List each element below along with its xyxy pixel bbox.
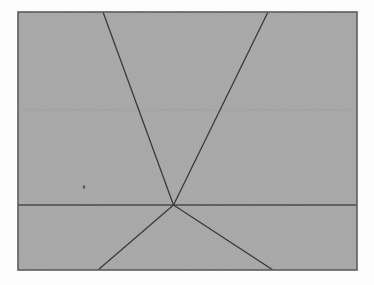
small-dot-marker <box>83 185 85 188</box>
figure-root <box>0 0 374 285</box>
plate-grain-texture <box>18 12 357 270</box>
line-figure-svg <box>0 0 374 285</box>
